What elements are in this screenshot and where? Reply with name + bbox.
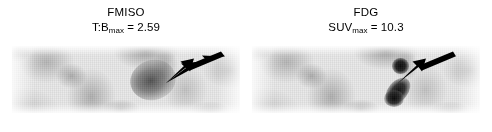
annotation-arrow-icon [396, 52, 460, 92]
metric-value-fdg: 10.3 [381, 21, 404, 33]
panel-metric-fdg: SUVmax = 10.3 [246, 21, 486, 35]
metric-prefix-fdg: SUV [328, 21, 352, 33]
pet-comparison-figure: FMISO T:Bmax = 2.59 FDG SUVmax = 10.3 [0, 0, 492, 132]
scan-image-fmiso [12, 46, 240, 113]
metric-value-fmiso: 2.59 [137, 21, 160, 33]
panel-fmiso: FMISO T:Bmax = 2.59 [6, 0, 246, 132]
metric-subscript-fmiso: max [109, 26, 124, 35]
panel-metric-fmiso: T:Bmax = 2.59 [6, 21, 246, 35]
metric-separator-fdg: = [367, 21, 380, 33]
metric-prefix-fmiso: T:B [92, 21, 109, 33]
metric-subscript-fdg: max [352, 26, 367, 35]
annotation-arrow-icon [164, 52, 228, 92]
scan-image-fdg [252, 46, 480, 113]
caption-fdg: FDG SUVmax = 10.3 [246, 6, 486, 34]
panel-fdg: FDG SUVmax = 10.3 [246, 0, 486, 132]
panel-title-fdg: FDG [246, 6, 486, 20]
panel-title-fmiso: FMISO [6, 6, 246, 20]
caption-fmiso: FMISO T:Bmax = 2.59 [6, 6, 246, 34]
metric-separator-fmiso: = [124, 21, 137, 33]
